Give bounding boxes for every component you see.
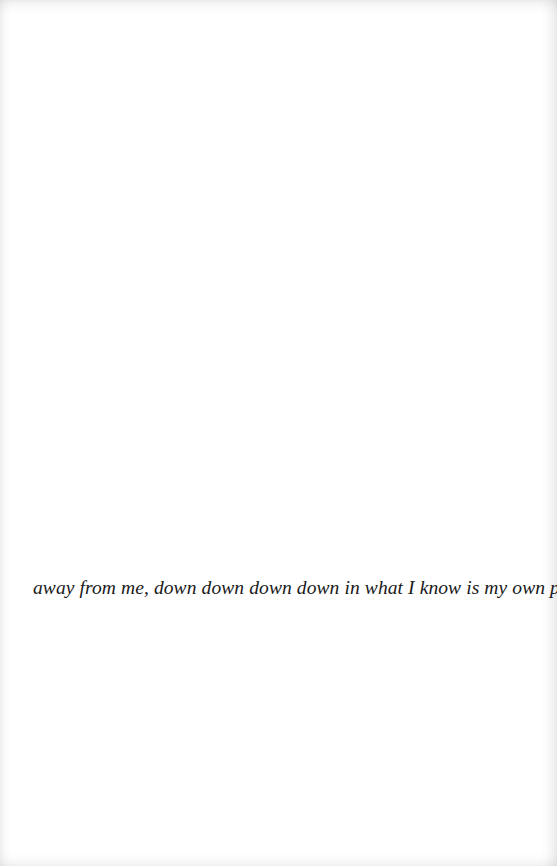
book-page: away from me, down down down down in wha…: [0, 0, 557, 866]
body-text-line: away from me, down down down down in wha…: [33, 576, 545, 600]
